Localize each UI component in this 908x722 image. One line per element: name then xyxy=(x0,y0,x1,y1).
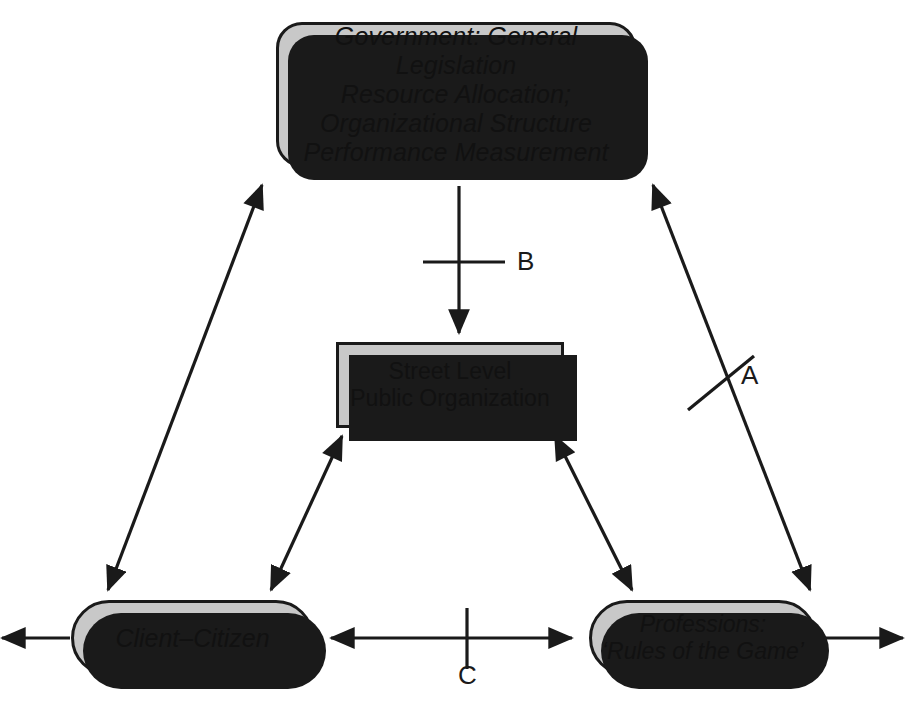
edge-client-to-professions xyxy=(331,608,572,669)
node-client-citizen[interactable]: Client–Citizen xyxy=(71,600,314,676)
diagram-canvas: Government: General Legislation Resource… xyxy=(0,0,908,722)
node-government-label: Government: General Legislation Resource… xyxy=(279,22,633,167)
edge-label-c: C xyxy=(458,662,477,688)
edge-street-to-client xyxy=(271,436,342,590)
node-street-level-public-organization[interactable]: Street Level Public Organization xyxy=(336,342,564,428)
node-government[interactable]: Government: General Legislation Resource… xyxy=(276,22,636,167)
edge-gov-to-street xyxy=(423,186,505,333)
edge-label-b: B xyxy=(517,248,534,274)
edge-label-a: A xyxy=(741,362,758,388)
node-client-citizen-label: Client–Citizen xyxy=(109,624,275,653)
node-professions[interactable]: Professions: ‘Rules of the Game’ xyxy=(589,600,817,676)
node-street-level-label: Street Level Public Organization xyxy=(344,358,555,411)
edge-street-to-professions xyxy=(555,436,632,590)
edge-gov-to-professions xyxy=(653,185,810,590)
edge-gov-to-client xyxy=(108,185,262,590)
node-professions-label: Professions: ‘Rules of the Game’ xyxy=(596,611,810,664)
